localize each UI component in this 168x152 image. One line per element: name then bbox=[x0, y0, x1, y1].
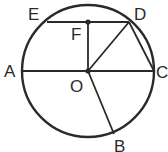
radius-ob bbox=[88, 71, 114, 134]
geometry-diagram: E D F A O C B bbox=[0, 0, 168, 152]
segment-od bbox=[88, 22, 129, 71]
label-c: C bbox=[156, 63, 168, 82]
point-f-dot bbox=[85, 19, 90, 24]
label-d: D bbox=[134, 5, 146, 24]
label-e: E bbox=[28, 5, 39, 24]
label-o: O bbox=[70, 77, 83, 96]
label-a: A bbox=[4, 62, 16, 81]
label-b: B bbox=[114, 137, 125, 152]
point-o-dot bbox=[85, 68, 90, 73]
label-f: F bbox=[71, 25, 81, 44]
